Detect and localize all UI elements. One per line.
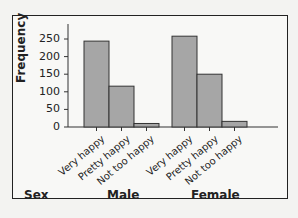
group-label-female: Female xyxy=(191,188,240,202)
bar xyxy=(134,123,159,127)
x-axis-title: Sex xyxy=(24,188,49,202)
y-tick-label: 100 xyxy=(30,85,60,98)
y-tick-label: 150 xyxy=(30,67,60,80)
y-axis-label: Frequency xyxy=(14,13,28,83)
bar xyxy=(109,86,134,127)
bar xyxy=(222,121,247,127)
bar xyxy=(197,74,222,127)
y-tick-label: 250 xyxy=(30,32,60,45)
y-tick-label: 50 xyxy=(30,102,60,115)
bar xyxy=(84,41,109,127)
y-tick-label: 0 xyxy=(30,120,60,133)
y-tick-label: 200 xyxy=(30,50,60,63)
bar xyxy=(172,36,197,127)
group-label-male: Male xyxy=(107,188,139,202)
